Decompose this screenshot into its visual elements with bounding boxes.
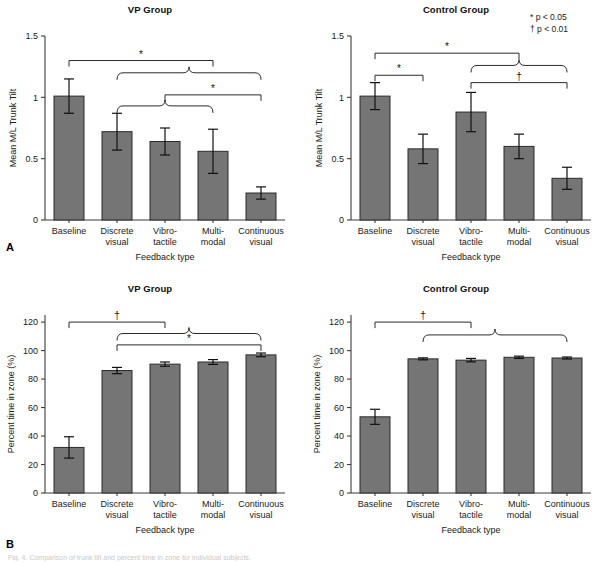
significance-symbol: † [420,310,426,321]
y-tick-label: 1.5 [331,31,344,41]
x-tick-label: tactile [459,510,483,520]
significance-brace [423,329,567,342]
significance-symbol: * [139,49,143,60]
bar [552,358,582,493]
significance-symbol: † [516,71,522,82]
chart-panel-b-control: Control Group 020406080100120Percent tim… [306,283,606,555]
y-tick-label: 1 [33,93,38,103]
y-tick-label: 0 [33,488,38,498]
bar [504,357,534,493]
x-axis-title: Feedback type [135,525,194,535]
y-axis-title: Percent time in zone (%) [6,355,16,454]
chart-svg: 020406080100120Percent time in zone (%)B… [0,283,300,555]
x-tick-label: Discrete [100,226,133,236]
significance-bracket [375,53,519,59]
bar [360,417,390,493]
x-axis-title: Feedback type [441,525,500,535]
bar [456,360,486,493]
x-tick-label: Vibro- [459,226,483,236]
bar [360,96,390,220]
x-tick-label: Baseline [52,499,87,509]
significance-bracket [375,75,423,81]
y-tick-label: 120 [329,317,344,327]
x-tick-label: visual [411,510,434,520]
x-tick-label: visual [555,510,578,520]
panel-title: VP Group [0,283,300,294]
significance-brace [117,100,213,113]
legend-dagger-text: † p < 0.01 [530,24,568,34]
x-tick-label: Multi- [202,226,224,236]
y-tick-label: 80 [334,374,344,384]
x-tick-label: modal [507,237,532,247]
significance-bracket [117,345,261,351]
y-tick-label: 20 [334,460,344,470]
x-tick-label: tactile [459,237,483,247]
y-tick-label: 40 [334,431,344,441]
x-tick-label: Vibro- [153,499,177,509]
y-tick-label: 60 [28,403,38,413]
x-tick-label: Baseline [358,226,393,236]
y-tick-label: 20 [28,460,38,470]
y-tick-label: 1.5 [25,31,38,41]
y-axis-title: Mean M/L Trunk Tilt [8,88,18,167]
significance-brace [117,67,261,80]
figure-root: VP Group 00.511.5Mean M/L Trunk TiltBase… [0,0,612,563]
y-tick-label: 1 [339,93,344,103]
bar [54,96,84,220]
panel-title: Control Group [306,283,606,294]
significance-bracket [471,83,567,89]
x-tick-label: Continuous [238,226,284,236]
bar [246,355,276,493]
x-tick-label: Discrete [406,226,439,236]
significance-symbol: * [445,41,449,52]
x-tick-label: modal [201,510,226,520]
x-tick-label: visual [249,510,272,520]
significance-bracket [69,322,165,328]
significance-bracket [69,61,213,67]
significance-symbol: * [397,63,401,74]
x-tick-label: Multi- [508,226,530,236]
y-tick-label: 60 [334,403,344,413]
x-tick-label: tactile [153,237,177,247]
panel-title: VP Group [0,4,300,15]
x-axis-title: Feedback type [441,252,500,262]
y-axis-title: Percent time in zone (%) [312,355,322,454]
x-tick-label: Baseline [52,226,87,236]
y-tick-label: 80 [28,374,38,384]
x-tick-label: Discrete [406,499,439,509]
chart-svg: 020406080100120Percent time in zone (%)B… [306,283,606,555]
panel-letter-b: B [6,538,14,550]
chart-panel-a-control: Control Group 00.511.5Mean M/L Trunk Til… [306,4,606,282]
y-tick-label: 100 [23,346,38,356]
y-tick-label: 100 [329,346,344,356]
x-tick-label: tactile [153,510,177,520]
significance-symbol: * [187,333,191,344]
significance-bracket [165,95,261,101]
x-tick-label: Continuous [544,499,590,509]
significance-legend: * p < 0.05 † p < 0.01 [528,10,612,40]
figure-caption: Fig. 4. Comparison of trunk tilt and per… [8,554,608,561]
significance-bracket [375,322,471,328]
panel-letter-a: A [6,241,14,253]
chart-panel-b-vp: VP Group 020406080100120Percent time in … [0,283,300,555]
x-tick-label: Multi- [202,499,224,509]
x-axis-title: Feedback type [135,252,194,262]
y-tick-label: 0 [339,488,344,498]
x-tick-label: visual [411,237,434,247]
bar [198,362,228,493]
x-tick-label: Baseline [358,499,393,509]
x-tick-label: visual [555,237,578,247]
x-tick-label: modal [507,510,532,520]
legend-star-text: * p < 0.05 [530,12,567,22]
x-tick-label: Continuous [544,226,590,236]
x-tick-label: Vibro- [153,226,177,236]
y-tick-label: 0 [339,215,344,225]
chart-panel-a-vp: VP Group 00.511.5Mean M/L Trunk TiltBase… [0,4,300,282]
chart-svg: 00.511.5Mean M/L Trunk TiltBaselineDiscr… [306,4,606,282]
significance-symbol: † [114,310,120,321]
significance-symbol: * [211,83,215,94]
y-tick-label: 0 [33,215,38,225]
x-tick-label: visual [105,237,128,247]
x-tick-label: modal [201,237,226,247]
y-axis-title: Mean M/L Trunk Tilt [314,88,324,167]
